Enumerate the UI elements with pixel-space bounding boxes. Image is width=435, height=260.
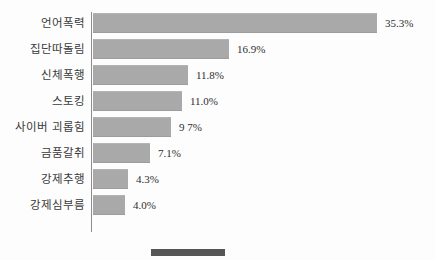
bar-row: 신체폭행 11.8% — [0, 65, 435, 91]
bar-track: 4.0% — [93, 195, 433, 215]
bar-value-label: 16.9% — [237, 39, 265, 59]
category-label: 사이버 괴롭힘 — [0, 117, 85, 137]
bar-series-0 — [93, 65, 188, 85]
bar-chart: 언어폭력 35.3% 집단따돌림 16.9% 신체폭행 11.8% 스토킹 — [0, 0, 435, 260]
bar-row: 언어폭력 35.3% — [0, 13, 435, 39]
bar-track: 7.1% — [93, 143, 433, 163]
legend-swatch — [151, 249, 225, 256]
bar-series-0 — [93, 143, 150, 163]
bar-value-label: 11.0% — [190, 91, 218, 111]
bar-value-label: 11.8% — [196, 65, 224, 85]
bar-row: 강제추행 4.3% — [0, 169, 435, 195]
bar-series-0 — [93, 13, 377, 33]
bar-series-0 — [93, 39, 229, 59]
bar-track: 11.0% — [93, 91, 433, 111]
category-label: 스토킹 — [0, 91, 85, 111]
plot-area: 언어폭력 35.3% 집단따돌림 16.9% 신체폭행 11.8% 스토킹 — [0, 13, 435, 221]
category-label: 강제추행 — [0, 169, 85, 189]
bar-track: 16.9% — [93, 39, 433, 59]
category-label: 집단따돌림 — [0, 39, 85, 59]
category-label: 강제심부름 — [0, 195, 85, 215]
bar-track: 11.8% — [93, 65, 433, 85]
bar-row: 스토킹 11.0% — [0, 91, 435, 117]
bar-value-label: 9 7% — [179, 117, 202, 137]
category-label: 언어폭력 — [0, 13, 85, 33]
bar-value-label: 4.3% — [136, 169, 159, 189]
bar-value-label: 4.0% — [133, 195, 156, 215]
bar-series-0 — [93, 91, 182, 111]
bar-row: 집단따돌림 16.9% — [0, 39, 435, 65]
bar-row: 강제심부름 4.0% — [0, 195, 435, 221]
bar-row: 금품갈취 7.1% — [0, 143, 435, 169]
category-label: 신체폭행 — [0, 65, 85, 85]
bar-row: 사이버 괴롭힘 9 7% — [0, 117, 435, 143]
bar-series-0 — [93, 195, 125, 215]
bar-track: 4.3% — [93, 169, 433, 189]
bar-series-0 — [93, 117, 171, 137]
bar-track: 9 7% — [93, 117, 433, 137]
bar-value-label: 7.1% — [158, 143, 181, 163]
bar-track: 35.3% — [93, 13, 433, 33]
category-label: 금품갈취 — [0, 143, 85, 163]
bar-value-label: 35.3% — [385, 13, 413, 33]
bar-series-0 — [93, 169, 128, 189]
